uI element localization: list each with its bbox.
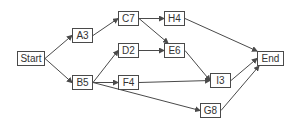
edge-start-b5: [45, 59, 72, 83]
edge-i3-end: [231, 59, 257, 81]
edge-a3-c7: [93, 19, 118, 36]
edge-f4-i3: [139, 81, 210, 83]
node-b5: B5: [72, 75, 93, 90]
edge-h4-end: [185, 19, 257, 52]
edge-b5-d2: [93, 51, 118, 83]
node-g8: G8: [200, 103, 221, 118]
node-e6: E6: [164, 43, 185, 58]
node-start: Start: [17, 51, 45, 66]
node-end: End: [257, 51, 284, 66]
node-c7: C7: [118, 11, 139, 26]
edge-e6-i3: [185, 51, 210, 81]
node-d2: D2: [118, 43, 139, 58]
node-a3: A3: [72, 28, 93, 43]
node-i3: I3: [210, 73, 231, 88]
edge-start-a3: [45, 36, 72, 59]
node-f4: F4: [118, 75, 139, 90]
node-h4: H4: [164, 11, 185, 26]
edge-b5-g8: [93, 83, 200, 111]
